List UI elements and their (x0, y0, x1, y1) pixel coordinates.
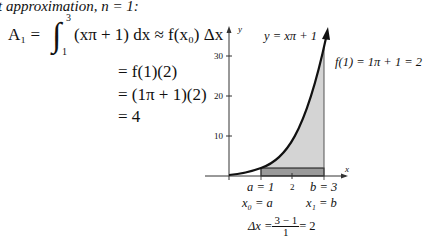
delta-x-rhs: = 2 (299, 219, 315, 234)
delta-x-lhs: Δx = (248, 219, 272, 234)
area-under-curve (261, 46, 324, 176)
curve-arrow-icon (322, 27, 330, 40)
y-tick-20: 20 (214, 91, 223, 101)
y-axis-arrow-icon (227, 26, 232, 33)
curve-label: y = xπ + 1 (264, 29, 317, 44)
y-tick-10: 10 (214, 131, 223, 141)
y-tick-30: 30 (214, 51, 223, 61)
x-axis-label: x (345, 164, 349, 174)
x0-label: x₀ = a (242, 196, 273, 211)
a-label: a = 1 (247, 180, 274, 195)
b-label: b = 3 (310, 180, 337, 195)
delta-x-formula: Δx = 3 − 1 1 = 2 (248, 215, 316, 238)
f1-label: f(1) = 1π + 1 = 2 (335, 55, 422, 70)
x-axis-arrow-icon (341, 174, 348, 179)
x-tick-2: 2 (290, 182, 295, 192)
figure-graph (0, 0, 430, 243)
x1-label: x₁ = b (306, 196, 337, 211)
y-axis-label: y (238, 24, 242, 34)
delta-x-denominator: 1 (283, 227, 289, 238)
delta-x-fraction: 3 − 1 1 (272, 215, 299, 238)
